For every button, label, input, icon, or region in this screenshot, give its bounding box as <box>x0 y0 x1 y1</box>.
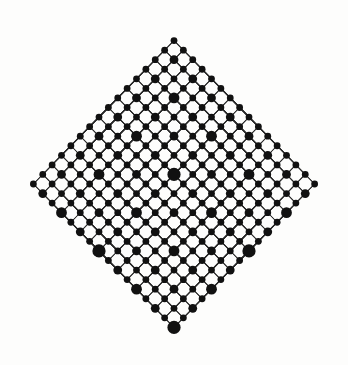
graph-node <box>255 142 262 149</box>
graph-node <box>208 190 215 197</box>
graph-node <box>189 286 196 293</box>
graph-node <box>161 295 168 302</box>
graph-node <box>105 161 112 168</box>
graph-node <box>236 257 243 264</box>
graph-node <box>227 95 234 102</box>
graph-node <box>236 200 243 207</box>
graph-node <box>274 219 281 226</box>
graph-node <box>171 75 178 82</box>
graph-node <box>86 181 93 188</box>
graph-node <box>274 200 281 207</box>
graph-node <box>152 248 159 255</box>
graph-node <box>124 142 131 149</box>
graph-node <box>142 161 149 168</box>
graph-node <box>206 207 217 218</box>
graph-node <box>208 228 215 235</box>
graph-node <box>169 93 180 104</box>
graph-node <box>161 314 168 321</box>
graph-node <box>96 190 103 197</box>
graph-node <box>189 133 196 140</box>
graph-node <box>180 295 187 302</box>
graph-node <box>49 200 56 207</box>
graph-node <box>151 266 160 275</box>
graph-node <box>58 190 65 197</box>
graph-node <box>152 286 159 293</box>
graph-node <box>170 55 179 64</box>
graph-node <box>199 219 206 226</box>
graph-node <box>207 247 216 256</box>
graph-node <box>227 171 234 178</box>
graph-node <box>161 142 168 149</box>
graph-node <box>236 219 243 226</box>
graph-node <box>142 142 149 149</box>
graph-node <box>161 238 168 245</box>
graph-node <box>96 152 103 159</box>
graph-node <box>124 219 131 226</box>
graph-node <box>86 238 93 245</box>
graph-node <box>180 104 187 111</box>
graph-node <box>30 181 37 188</box>
graph-node <box>86 142 93 149</box>
graph-node <box>244 169 255 180</box>
hypercube-graph-svg <box>0 0 348 365</box>
graph-node <box>113 113 122 122</box>
graph-node <box>94 169 105 180</box>
graph-node <box>246 228 253 235</box>
graph-node <box>151 227 160 236</box>
graph-node <box>161 181 168 188</box>
graph-node <box>161 200 168 207</box>
graph-node <box>142 181 149 188</box>
graph-node <box>67 200 74 207</box>
graph-node <box>180 66 187 73</box>
graph-node <box>161 66 168 73</box>
graph-node <box>167 321 180 334</box>
graph-node <box>151 113 160 122</box>
graph-node <box>245 132 254 141</box>
graph-node <box>105 200 112 207</box>
graph-node <box>171 267 178 274</box>
graph-node <box>170 208 179 217</box>
graph-node <box>189 95 196 102</box>
graph-node <box>49 181 56 188</box>
graph-node <box>189 209 196 216</box>
graph-node <box>161 276 168 283</box>
graph-node <box>133 267 140 274</box>
graph-node <box>180 161 187 168</box>
graph-node <box>124 181 131 188</box>
graph-node <box>245 208 254 217</box>
graph-node <box>264 171 271 178</box>
graph-node <box>180 238 187 245</box>
graph-node <box>188 74 197 83</box>
graph-node <box>188 113 197 122</box>
graph-node <box>199 276 206 283</box>
graph-node <box>133 228 140 235</box>
graph-node <box>105 123 112 130</box>
graph-node <box>171 228 178 235</box>
graph-node <box>255 161 262 168</box>
graph-node <box>242 244 255 257</box>
graph-node <box>96 228 103 235</box>
graph-node <box>142 104 149 111</box>
graph-node <box>217 276 224 283</box>
graph-node <box>274 161 281 168</box>
graph-node <box>236 142 243 149</box>
graph-node <box>131 284 142 295</box>
graph-node <box>180 200 187 207</box>
graph-node <box>171 305 178 312</box>
graph-node <box>131 131 142 142</box>
graph-node <box>105 104 112 111</box>
graph-node <box>114 95 121 102</box>
graph-node <box>142 200 149 207</box>
graph-node <box>171 152 178 159</box>
graph-node <box>217 181 224 188</box>
graph-node <box>86 161 93 168</box>
graph-node <box>67 219 74 226</box>
graph-node <box>76 151 85 160</box>
graph-node <box>124 123 131 130</box>
graph-node <box>77 133 84 140</box>
graph-node <box>199 257 206 264</box>
graph-node <box>189 248 196 255</box>
graph-node <box>38 189 47 198</box>
graph-node <box>255 238 262 245</box>
graph-node <box>114 171 121 178</box>
